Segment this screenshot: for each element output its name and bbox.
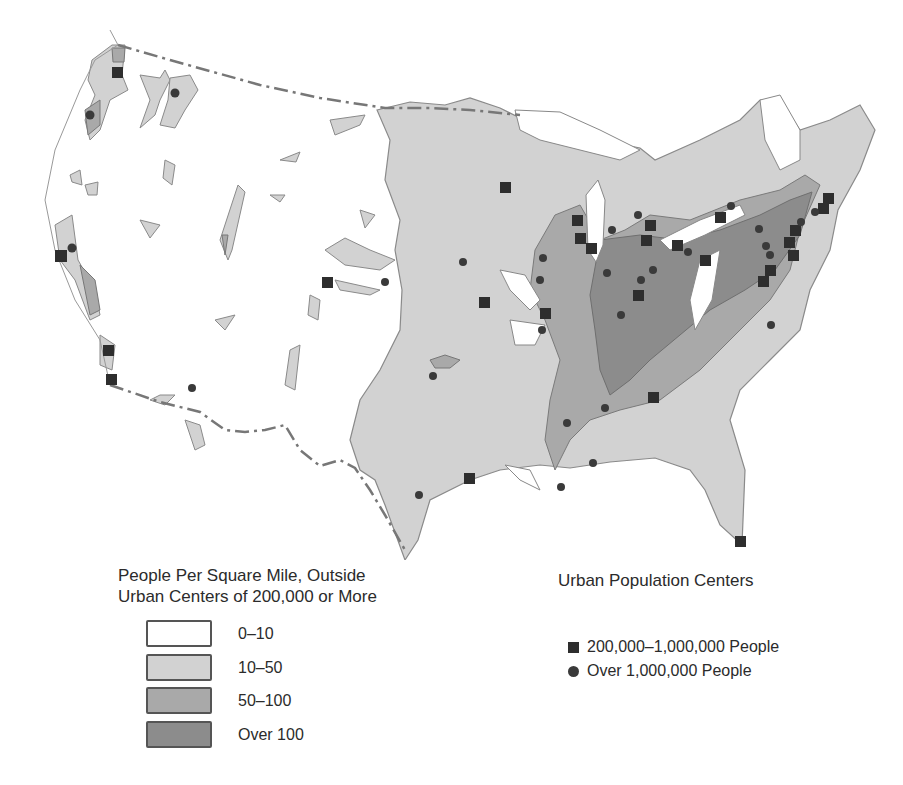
density-legend-label: 50–100 bbox=[238, 692, 291, 710]
swatch-over-100 bbox=[146, 721, 212, 748]
circle-marker-icon bbox=[568, 666, 579, 677]
swatch-0-10 bbox=[146, 620, 212, 647]
density-legend-item-over-100: Over 100 bbox=[146, 721, 304, 748]
density-legend-title: People Per Square Mile, Outside Urban Ce… bbox=[118, 565, 377, 607]
swatch-10-50 bbox=[146, 654, 212, 681]
urban-legend-label: 200,000–1,000,000 People bbox=[587, 638, 779, 656]
density-legend-item-50-100: 50–100 bbox=[146, 687, 291, 714]
density-legend-title-line2: Urban Centers of 200,000 or More bbox=[118, 586, 377, 607]
swatch-50-100 bbox=[146, 687, 212, 714]
white-area-gulf bbox=[505, 465, 540, 490]
density-legend-label: 0–10 bbox=[238, 625, 274, 643]
urban-legend-label: Over 1,000,000 People bbox=[587, 662, 752, 680]
square-marker-icon bbox=[568, 642, 579, 653]
density-legend-title-line1: People Per Square Mile, Outside bbox=[118, 565, 377, 586]
density-legend-label: Over 100 bbox=[238, 726, 304, 744]
density-legend-label: 10–50 bbox=[238, 659, 283, 677]
density-legend-item-10-50: 10–50 bbox=[146, 654, 283, 681]
us-population-density-map bbox=[0, 0, 903, 560]
urban-legend-title: Urban Population Centers bbox=[558, 570, 754, 591]
urban-legend-item-circle: Over 1,000,000 People bbox=[568, 662, 752, 680]
urban-legend-item-square: 200,000–1,000,000 People bbox=[568, 638, 779, 656]
density-legend-item-0-10: 0–10 bbox=[146, 620, 274, 647]
